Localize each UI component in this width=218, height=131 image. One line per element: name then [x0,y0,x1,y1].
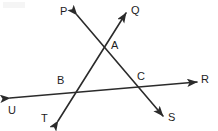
point-label-B: B [57,75,64,86]
lines-group [10,13,197,121]
geometry-figure: P Q R S T U A B C [0,0,218,131]
point-label-C: C [137,71,145,82]
point-label-U: U [8,105,16,116]
geometry-canvas [0,0,218,131]
point-label-R: R [201,74,209,85]
point-label-S: S [168,112,175,123]
point-label-A: A [111,40,118,51]
line-transversal-U-R [10,82,197,98]
line-ray-P-S [77,15,163,116]
line-ray-T-Q [58,13,126,121]
point-label-Q: Q [131,5,140,16]
point-label-P: P [60,6,67,17]
point-label-T: T [41,113,48,124]
